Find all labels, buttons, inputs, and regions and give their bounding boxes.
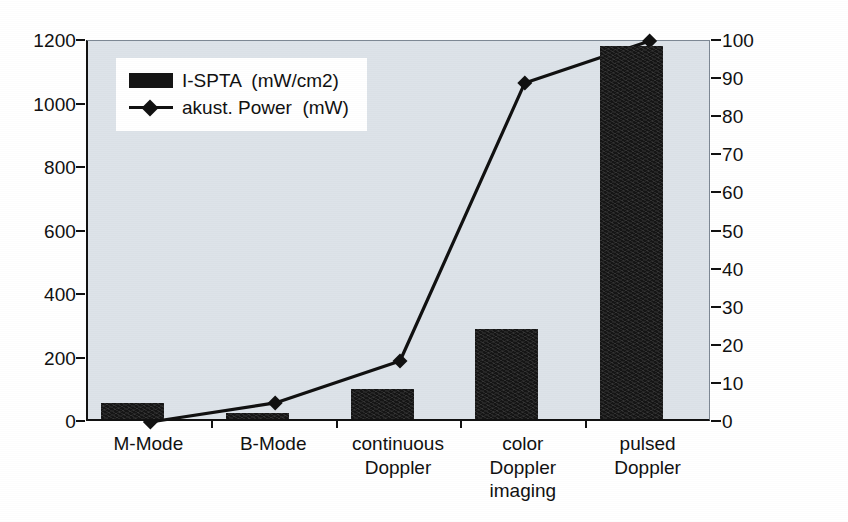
left-axis-tick-mark	[76, 230, 85, 232]
chart-legend: I-SPTA (mW/cm2) akust. Power (mW)	[116, 58, 367, 131]
bar	[475, 329, 538, 419]
x-axis-tick-mark	[211, 421, 213, 428]
x-axis-tick-mark	[585, 421, 587, 428]
right-axis-tick-mark	[711, 420, 721, 422]
x-axis-category-label: continuous Doppler	[336, 432, 461, 479]
legend-label-akust-power: akust. Power (mW)	[182, 97, 349, 119]
left-axis-tick-mark	[76, 39, 85, 41]
right-axis-tick-mark	[711, 306, 721, 308]
legend-line-diamond-icon	[129, 100, 173, 115]
bar	[351, 389, 414, 419]
x-axis-category-label: pulsed Doppler	[585, 432, 710, 479]
chart-figure: 020040060080010001200 010203040506070809…	[0, 0, 848, 522]
legend-label-i-spta: I-SPTA (mW/cm2)	[182, 70, 339, 92]
right-axis-tick-mark	[711, 268, 721, 270]
bar-texture	[475, 329, 538, 419]
x-axis-category-label: M-Mode	[86, 432, 211, 456]
line-marker-diamond	[517, 75, 532, 90]
left-axis-tick-mark	[76, 103, 85, 105]
line-marker-diamond	[268, 395, 283, 410]
right-axis-tick-mark	[711, 153, 721, 155]
bar-texture	[351, 389, 414, 419]
left-axis-tick-mark	[76, 420, 85, 422]
x-axis-category-label: color Doppler imaging	[460, 432, 585, 503]
bar-texture	[101, 403, 164, 419]
left-axis-tick-mark	[76, 166, 85, 168]
left-axis-tick-mark	[76, 293, 85, 295]
right-axis-tick-mark	[711, 77, 721, 79]
x-axis-tick-mark	[336, 421, 338, 428]
bar	[600, 46, 663, 419]
x-axis-category-label: B-Mode	[211, 432, 336, 456]
x-axis-tick-mark	[460, 421, 462, 428]
right-axis-tick-mark	[711, 191, 721, 193]
legend-item-akust-power: akust. Power (mW)	[129, 94, 349, 121]
right-axis-tick-mark	[711, 115, 721, 117]
bar-texture	[600, 46, 663, 419]
legend-bar-swatch-icon	[129, 73, 173, 88]
bar	[101, 403, 164, 419]
right-axis-tick-mark	[711, 382, 721, 384]
left-axis-tick-mark	[76, 357, 85, 359]
right-axis-tick-mark	[711, 39, 721, 41]
right-axis-tick-mark	[711, 344, 721, 346]
line-marker-diamond	[393, 354, 408, 369]
bar	[226, 413, 289, 419]
bar-texture	[226, 413, 289, 419]
legend-item-i-spta: I-SPTA (mW/cm2)	[129, 67, 349, 94]
right-axis-tick-mark	[711, 230, 721, 232]
x-axis-category-labels: M-ModeB-Modecontinuous Dopplercolor Dopp…	[86, 432, 710, 516]
